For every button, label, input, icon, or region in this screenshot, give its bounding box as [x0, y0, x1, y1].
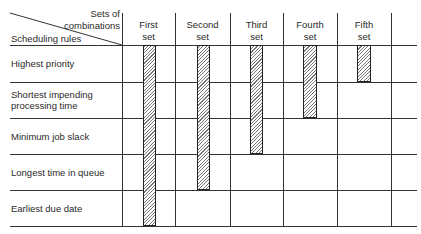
- column-header-second-set: Second set: [175, 19, 230, 43]
- row-divider: [10, 190, 417, 191]
- row-divider: [10, 154, 417, 155]
- column-header-fourth-set: Fourth set: [283, 19, 337, 43]
- column-divider: [122, 13, 123, 226]
- row-label-highest-priority: Highest priority: [11, 58, 74, 69]
- row-label-earliest-due-date: Earliest due date: [11, 203, 82, 214]
- row-label-minimum-job-slack: Minimum job slack: [11, 131, 89, 142]
- column-header-third-set: Third set: [230, 19, 283, 43]
- corner-label-scheduling-rules: Scheduling rules: [11, 33, 81, 44]
- column-divider: [391, 13, 392, 226]
- row-label-shortest-impending-processing-time: Shortest impending processing time: [11, 89, 93, 111]
- header-bottom-line: [10, 45, 417, 46]
- bar-second-set: [197, 45, 210, 190]
- bar-third-set: [250, 45, 263, 154]
- row-divider: [10, 82, 417, 83]
- column-divider: [175, 13, 176, 226]
- column-header-fifth-set: Fifth set: [337, 19, 391, 43]
- column-header-first-set: First set: [122, 19, 175, 43]
- column-divider: [283, 13, 284, 226]
- table-bottom-line: [10, 226, 417, 227]
- bar-fifth-set: [357, 45, 371, 82]
- column-divider: [230, 13, 231, 226]
- bar-fourth-set: [303, 45, 317, 118]
- row-label-longest-time-in-queue: Longest time in queue: [11, 167, 104, 178]
- row-divider: [10, 118, 417, 119]
- corner-label-sets-of-combinations: Sets of combinations: [64, 8, 120, 32]
- column-divider: [337, 13, 338, 226]
- bar-first-set: [143, 45, 156, 226]
